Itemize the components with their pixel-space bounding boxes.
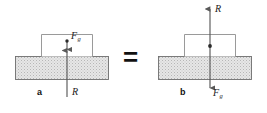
panel-b-gravity-label: Fg — [213, 88, 222, 98]
panel-a-reaction-label: R — [72, 87, 78, 97]
panel-b-group — [159, 9, 252, 88]
panel-a-gravity-label: Fg — [71, 31, 80, 41]
equals-sign: = — [123, 44, 138, 70]
panel-b-caption: b — [180, 88, 186, 97]
physics-figure: Fg R a = R Fg b — [0, 0, 267, 113]
panel-b-slab — [159, 57, 252, 80]
panel-a-group — [16, 35, 109, 98]
panel-a-slab — [16, 57, 109, 80]
panel-a-caption: a — [37, 88, 42, 97]
panel-a-force-origin-dot — [65, 39, 68, 42]
panel-b-force-origin-dot — [208, 44, 212, 48]
panel-b-reaction-label: R — [215, 4, 221, 14]
